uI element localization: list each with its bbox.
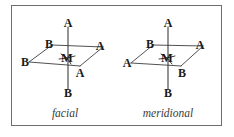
facial-ligand-lower-right: A [76, 67, 85, 79]
facial-ligand-axial-top: A [64, 17, 73, 29]
facial-center-metal-label: M [61, 52, 73, 65]
meridional-ligand-left: A [123, 57, 132, 69]
meridional-ligand-upper-left: B [146, 38, 154, 50]
facial-ligand-right: A [96, 40, 105, 52]
facial-ligand-axial-bottom: B [64, 87, 72, 99]
facial-caption: facial [52, 107, 78, 119]
meridional-ligand-right: A [196, 39, 205, 51]
facial-ligand-upper-left: B [45, 38, 53, 50]
meridional-ligand-axial-top: A [164, 17, 173, 29]
figure-canvas: M A B B B A A facial M A B B A A B merid… [0, 0, 234, 137]
facial-ligand-left: B [21, 56, 29, 68]
meridional-ligand-axial-bottom: B [164, 87, 172, 99]
meridional-center-metal-label: M [161, 52, 173, 65]
meridional-ligand-lower-right: B [178, 67, 186, 79]
meridional-caption: meridional [143, 107, 193, 119]
